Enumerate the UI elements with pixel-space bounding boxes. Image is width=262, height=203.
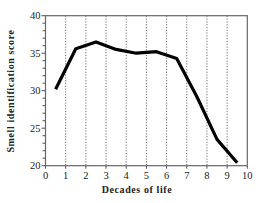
x-tick-label: 5 [144,170,149,181]
y-axis-title: Smell identification score [5,29,16,152]
x-tick-label: 1 [63,170,68,181]
x-axis-title: Decades of life [102,184,173,195]
x-tick-label: 4 [124,170,130,181]
x-tick-label: 8 [204,170,209,181]
vertical-gridlines [66,16,227,166]
x-tick-label: 0 [43,170,48,181]
y-tick-label: 35 [30,48,41,59]
x-tick-label: 3 [103,170,108,181]
x-tick-label: 6 [164,170,169,181]
y-tick-label: 25 [30,123,41,134]
y-tick-label: 20 [30,160,41,171]
y-axis: 2025303540 [30,10,46,171]
x-tick-label: 10 [242,170,253,181]
x-tick-label: 2 [83,170,88,181]
x-tick-label: 9 [224,170,229,181]
y-tick-label: 30 [30,85,41,96]
x-tick-label: 7 [184,170,189,181]
y-tick-label: 40 [30,10,41,21]
x-axis: 012345678910 [43,166,253,181]
smell-score-line-chart: 2025303540 012345678910 Decades of life … [0,0,262,203]
